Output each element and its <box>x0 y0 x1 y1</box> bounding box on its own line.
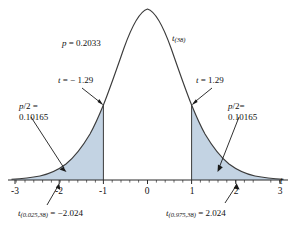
p-value-text: = 0.2033 <box>67 38 101 48</box>
x-axis-label: t <box>280 176 283 186</box>
annotation-half-p-right: p/2=0.10165 <box>228 101 257 122</box>
annotation-half-p-left: p/2 =0.10165 <box>19 101 48 122</box>
annotation-critical-left: t(0.025,38) = −2.024 <box>18 208 83 221</box>
annotation-t-positive: t = 1.29 <box>196 75 224 86</box>
annotation-t-negative: t = − 1.29 <box>58 75 93 86</box>
t-density-curve <box>12 9 284 179</box>
t-pos-value: = 1.29 <box>199 75 224 85</box>
annotation-distribution-label: t(38) <box>172 33 186 46</box>
half-p-right-line1: /2= <box>233 101 245 111</box>
distribution-subscript: (38) <box>175 36 186 43</box>
x-axis-major-ticks <box>15 180 280 184</box>
leader-t-positive <box>192 88 212 105</box>
critical-right-subscript: (0.975,38) <box>169 211 196 218</box>
critical-left-value: = −2.024 <box>48 208 83 218</box>
x-tick-label: -2 <box>51 186 67 196</box>
half-p-right-line2: 0.10165 <box>228 112 257 122</box>
x-tick-label: -1 <box>95 186 111 196</box>
leader-half-p-left <box>31 117 67 172</box>
leader-t-negative <box>82 88 103 105</box>
x-tick-label: 2 <box>228 186 244 196</box>
half-p-left-line1: /2 = <box>24 101 38 111</box>
x-tick-label: -3 <box>7 186 23 196</box>
t-distribution-figure: p = 0.2033 t(38) t = − 1.29 t = 1.29 p/2… <box>0 0 291 235</box>
half-p-left-line2: 0.10165 <box>19 112 48 122</box>
annotation-critical-right: t(0.975,38) = 2.024 <box>166 208 226 221</box>
x-tick-label: 0 <box>139 186 155 196</box>
annotation-p-value: p = 0.2033 <box>62 38 101 49</box>
x-tick-label: 1 <box>184 186 200 196</box>
x-tick-label: 3 <box>272 186 288 196</box>
critical-left-subscript: (0.025,38) <box>21 211 48 218</box>
t-neg-value: = − 1.29 <box>61 75 94 85</box>
critical-right-value: = 2.024 <box>196 208 226 218</box>
